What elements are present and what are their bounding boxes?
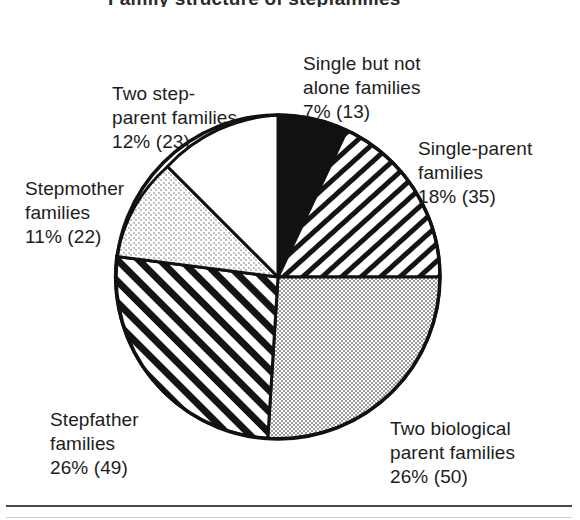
figure-bottom-rule: [6, 505, 572, 507]
slice-label-line1: Two step-: [112, 83, 195, 104]
slice-label-line2: alone families: [303, 77, 421, 98]
slice-label-line1: Two biological: [390, 418, 511, 439]
slice-label-value: 11% (22): [25, 225, 195, 249]
slice-label-value: 26% (50): [390, 465, 580, 489]
slice-label-line2: families: [25, 202, 90, 223]
slice-label-line1: Stepmother: [25, 178, 124, 199]
slice-label-line1: Single but not: [303, 53, 421, 74]
slice-label-two-biological-parent: Two biological parent families 26% (50): [390, 393, 580, 513]
slice-label-line1: Stepfather: [50, 409, 139, 430]
pie-chart-figure: Family structure of stepfamilies: [0, 0, 580, 520]
slice-label-line1: Single-parent: [418, 138, 532, 159]
slice-label-line2: parent families: [112, 107, 237, 128]
slice-label-single-parent: Single-parent families 18% (35): [418, 113, 580, 233]
slice-label-value: 18% (35): [418, 185, 580, 209]
slice-label-two-step-parent: Two step- parent families 12% (23): [112, 58, 292, 178]
slice-label-line2: parent families: [390, 442, 515, 463]
slice-label-value: 26% (49): [50, 456, 225, 480]
cropped-title-strip: Family structure of stepfamilies: [0, 0, 580, 7]
page-title: Family structure of stepfamilies: [108, 0, 401, 7]
figure-bottom-rule-secondary: [6, 517, 572, 518]
slice-label-value: 12% (23): [112, 130, 292, 154]
slice-label-line2: families: [50, 433, 115, 454]
slice-label-stepfather: Stepfather families 26% (49): [50, 384, 225, 504]
slice-label-line2: families: [418, 162, 483, 183]
